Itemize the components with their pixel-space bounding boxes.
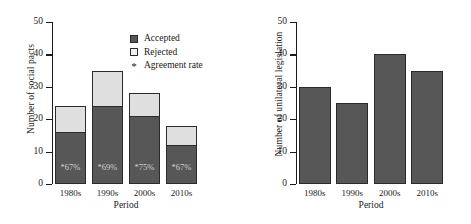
bar-value-1990s	[336, 103, 368, 184]
x-tick-label-right-2000s: 2000s	[374, 189, 406, 198]
y-tick-left-50	[46, 22, 52, 23]
bars-container-right: 1980s1990s2000s2010s	[296, 22, 446, 184]
bar-left-2010s[interactable]: *67%2010s	[166, 126, 198, 184]
bar-segment-accepted-2010s: *67%	[166, 145, 198, 184]
bar-right-2000s[interactable]: 2000s	[374, 54, 406, 184]
y-tick-right-10	[290, 152, 296, 153]
x-axis-title-left: Period	[52, 201, 200, 211]
bar-right-1990s[interactable]: 1990s	[336, 103, 368, 184]
legend-item-accepted: Accepted	[130, 32, 203, 46]
x-tick-label-left-1990s: 1990s	[92, 189, 124, 198]
y-tick-label-left-50: 50	[34, 17, 44, 27]
bar-value-2010s	[411, 71, 443, 184]
panel-unilateral-legislation: Number of unilateral legislation 1980s19…	[236, 0, 471, 224]
bar-segment-rejected-1990s	[92, 71, 124, 107]
panel-social-pacts: Number of social pacts *67%1980s*69%1990…	[0, 0, 235, 224]
bar-segment-accepted-1980s: *67%	[55, 132, 87, 184]
x-tick-label-right-2010s: 2010s	[411, 189, 443, 198]
y-tick-label-right-40: 40	[278, 50, 288, 60]
bar-value-1980s	[299, 87, 331, 184]
bar-segment-rejected-2010s	[166, 126, 198, 145]
bar-segment-accepted-2000s: *75%	[129, 116, 161, 184]
y-tick-label-right-20: 20	[278, 114, 288, 124]
agreement-rate-label-2000s: *75%	[130, 163, 160, 172]
y-tick-label-left-40: 40	[34, 50, 44, 60]
y-tick-left-10	[46, 152, 52, 153]
y-tick-label-left-0: 0	[38, 179, 43, 189]
x-tick-label-right-1990s: 1990s	[336, 189, 368, 198]
y-tick-label-left-30: 30	[34, 82, 44, 92]
y-tick-label-right-50: 50	[278, 17, 288, 27]
legend-star-icon: *	[130, 62, 138, 70]
legend-left: Accepted Rejected * Agreement rate	[130, 32, 203, 73]
bar-right-2010s[interactable]: 2010s	[411, 71, 443, 184]
legend-label-agreement-rate: Agreement rate	[144, 59, 203, 73]
y-tick-label-right-0: 0	[282, 179, 287, 189]
figure-two-panel-bar-charts: Number of social pacts *67%1980s*69%1990…	[0, 0, 471, 224]
bar-left-1990s[interactable]: *69%1990s	[92, 71, 124, 184]
x-axis-title-right: Period	[296, 201, 446, 211]
y-tick-left-20	[46, 119, 52, 120]
plot-area-right: 1980s1990s2000s2010s 01020304050	[296, 22, 446, 184]
x-tick-label-left-1980s: 1980s	[55, 189, 87, 198]
bar-segment-rejected-2000s	[129, 93, 161, 116]
bar-segment-rejected-1980s	[55, 106, 87, 132]
bar-segment-accepted-1990s: *69%	[92, 106, 124, 184]
bar-left-2000s[interactable]: *75%2000s	[129, 93, 161, 184]
x-tick-label-right-1980s: 1980s	[299, 189, 331, 198]
y-tick-right-0	[290, 184, 296, 185]
x-tick-label-left-2010s: 2010s	[166, 189, 198, 198]
y-tick-left-0	[46, 184, 52, 185]
legend-item-agreement-rate: * Agreement rate	[130, 59, 203, 73]
legend-item-rejected: Rejected	[130, 46, 203, 60]
legend-swatch-rejected-icon	[130, 48, 138, 56]
y-axis-title-right: Number of unilateral legislation	[272, 0, 286, 192]
legend-label-accepted: Accepted	[144, 32, 180, 46]
y-tick-right-50	[290, 22, 296, 23]
y-tick-label-right-30: 30	[278, 82, 288, 92]
legend-label-rejected: Rejected	[144, 46, 177, 60]
y-tick-label-left-20: 20	[34, 114, 44, 124]
y-tick-left-40	[46, 54, 52, 55]
y-tick-left-30	[46, 87, 52, 88]
y-axis-title-left: Number of social pacts	[24, 0, 38, 184]
x-tick-label-left-2000s: 2000s	[129, 189, 161, 198]
y-tick-label-left-10: 10	[34, 147, 44, 157]
y-tick-label-right-10: 10	[278, 147, 288, 157]
bar-value-2000s	[374, 54, 406, 184]
y-tick-right-20	[290, 119, 296, 120]
agreement-rate-label-1980s: *67%	[56, 163, 86, 172]
y-tick-right-30	[290, 87, 296, 88]
legend-swatch-accepted-icon	[130, 35, 138, 43]
bar-right-1980s[interactable]: 1980s	[299, 87, 331, 184]
y-tick-right-40	[290, 54, 296, 55]
agreement-rate-label-2010s: *67%	[167, 163, 197, 172]
agreement-rate-label-1990s: *69%	[93, 163, 123, 172]
bar-left-1980s[interactable]: *67%1980s	[55, 106, 87, 184]
